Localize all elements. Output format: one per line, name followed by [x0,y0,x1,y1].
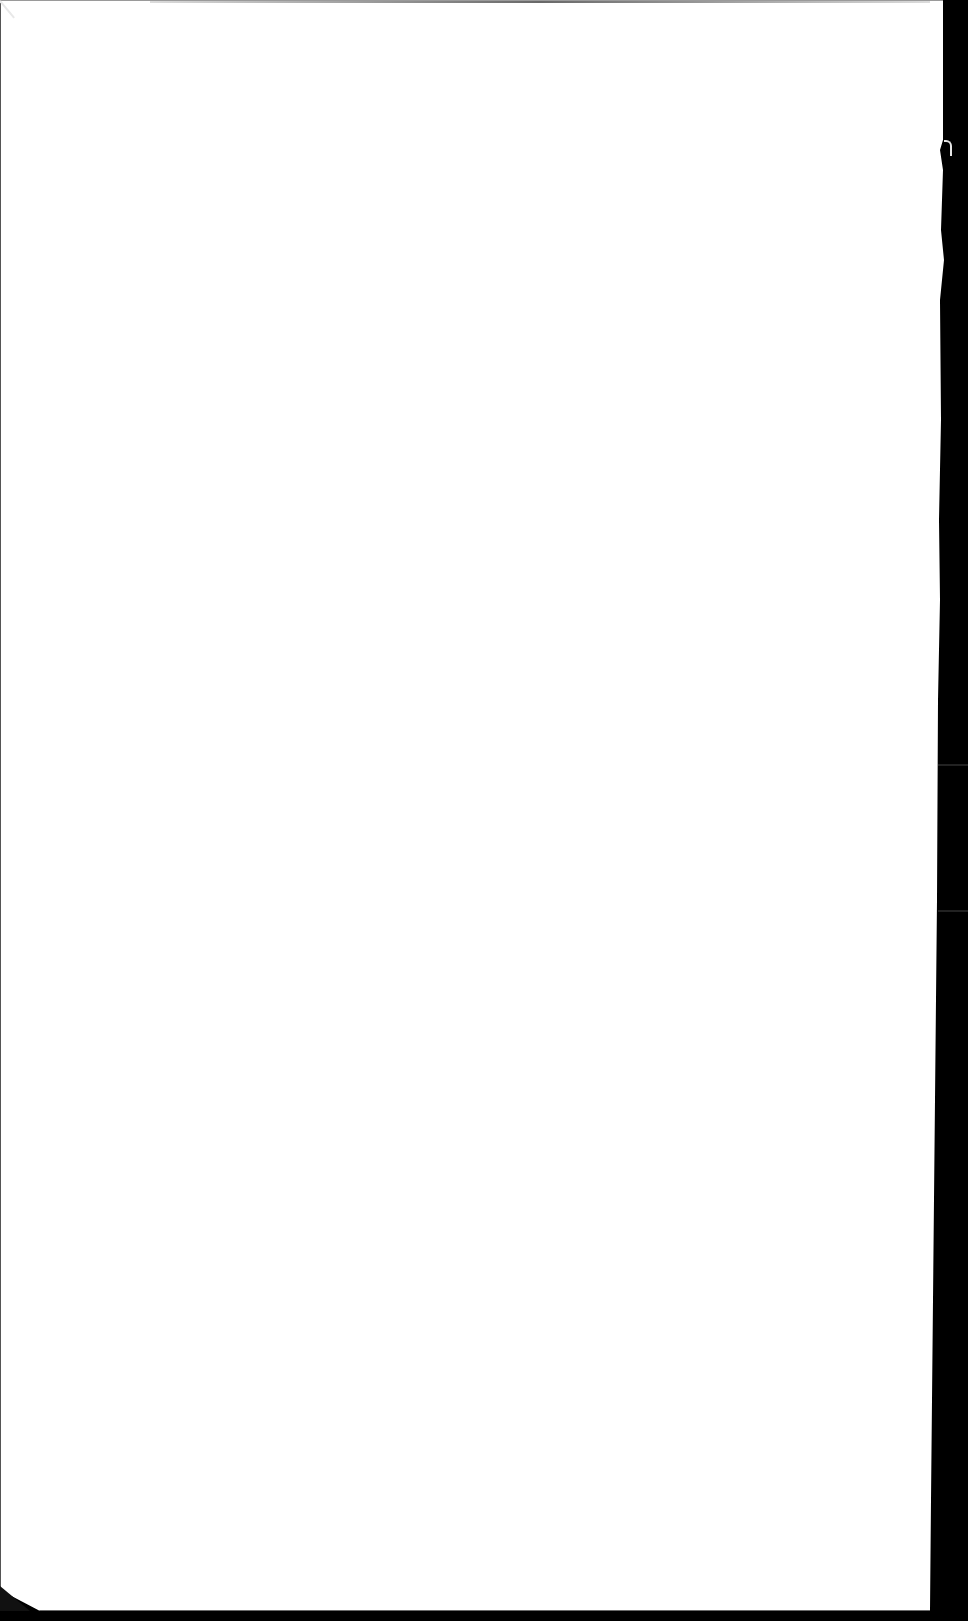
scan-background [0,0,968,1621]
left-page-edge [0,1,1,1601]
torn-edge-curl [944,140,952,156]
blank-page [0,0,968,1621]
background-seam [938,764,968,766]
bottom-page-edge [0,1610,932,1612]
background-seam [938,910,968,912]
corner-fold-shadow [0,1586,30,1611]
top-edge-shadow [150,1,930,3]
